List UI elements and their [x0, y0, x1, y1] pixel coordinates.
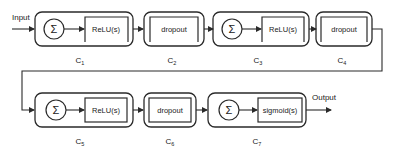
block-label-c3: C3: [254, 56, 263, 66]
activation-label: ReLU(s): [92, 106, 120, 115]
activation-label: ReLU(s): [269, 25, 297, 34]
block-c5: Σ ReLU(s): [35, 93, 133, 127]
block-c3: Σ ReLU(s): [213, 12, 309, 46]
output-label: Output: [312, 93, 337, 102]
sum-symbol: Σ: [226, 104, 233, 116]
block-c7: Σ sigmoid(s): [208, 93, 306, 127]
sum-symbol: Σ: [53, 104, 60, 116]
activation-label: ReLU(s): [92, 25, 120, 34]
dropout-label: dropout: [331, 25, 357, 34]
block-label-c7: C7: [253, 137, 262, 147]
network-diagram: Input Σ ReLU(s) C1 dropout C2 Σ ReLU(s) …: [0, 0, 396, 156]
activation-label: sigmoid(s): [263, 106, 298, 115]
block-label-c5: C5: [76, 137, 85, 147]
sum-symbol: Σ: [51, 23, 58, 35]
block-c6: dropout: [144, 93, 196, 127]
block-label-c4: C4: [338, 56, 347, 66]
block-c4: dropout: [316, 12, 372, 46]
dropout-label: dropout: [161, 25, 187, 34]
dropout-label: dropout: [157, 106, 183, 115]
block-c1: Σ ReLU(s): [35, 12, 133, 46]
block-label-c1: C1: [76, 56, 85, 66]
sum-symbol: Σ: [229, 23, 236, 35]
block-label-c2: C2: [168, 56, 177, 66]
block-c2: dropout: [144, 12, 204, 46]
input-label: Input: [12, 13, 31, 22]
block-label-c6: C6: [166, 137, 175, 147]
